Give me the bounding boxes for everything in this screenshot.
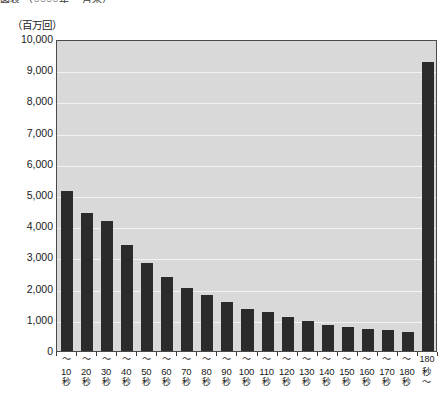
x-label-line-2: 50 xyxy=(136,366,156,378)
x-label-line-3: 秒 xyxy=(277,377,297,389)
bar xyxy=(201,295,213,351)
x-label-line-2: 90 xyxy=(216,366,236,378)
x-label-line-1: 〜 xyxy=(297,354,317,366)
bar xyxy=(382,330,394,351)
x-label-line-1: 〜 xyxy=(236,354,256,366)
bar xyxy=(282,317,294,351)
x-label-line-1: 〜 xyxy=(76,354,96,366)
bar xyxy=(342,327,354,351)
x-label-line-3: 秒 xyxy=(317,377,337,389)
x-label-line-3: 〜 xyxy=(417,377,437,389)
x-label-line-3: 秒 xyxy=(297,377,317,389)
x-label-line-2: 170 xyxy=(377,366,397,378)
x-label-line-3: 秒 xyxy=(216,377,236,389)
y-axis-tick-labels: 10,0009,0008,0007,0006,0005,0004,0003,00… xyxy=(0,0,53,407)
bar xyxy=(161,277,173,351)
x-label-line-3: 秒 xyxy=(56,377,76,389)
x-label-line-2: 150 xyxy=(337,366,357,378)
x-label-line-3: 秒 xyxy=(76,377,96,389)
x-label-line-2: 20 xyxy=(76,366,96,378)
y-tick-label: 6,000 xyxy=(1,158,53,170)
x-tick-label: 〜60秒 xyxy=(156,354,176,389)
bar xyxy=(402,332,414,351)
x-tick-label: 〜180秒 xyxy=(397,354,417,389)
x-label-line-1: 〜 xyxy=(136,354,156,366)
x-label-line-3: 秒 xyxy=(96,377,116,389)
y-tick-label: 7,000 xyxy=(1,127,53,139)
x-label-line-3: 秒 xyxy=(116,377,136,389)
x-label-line-2: 160 xyxy=(357,366,377,378)
x-tick-mark xyxy=(437,352,438,356)
bar xyxy=(362,329,374,351)
x-label-line-2: 10 xyxy=(56,366,76,378)
x-label-line-3: 秒 xyxy=(377,377,397,389)
x-label-line-3: 秒 xyxy=(176,377,196,389)
x-tick-label: 〜150秒 xyxy=(337,354,357,389)
y-tick-label: 8,000 xyxy=(1,95,53,107)
x-label-line-3: 秒 xyxy=(337,377,357,389)
x-label-line-1: 〜 xyxy=(176,354,196,366)
x-label-line-1: 〜 xyxy=(317,354,337,366)
x-tick-label: 〜120秒 xyxy=(277,354,297,389)
x-tick-label: 180秒〜 xyxy=(417,354,437,389)
bar xyxy=(121,245,133,351)
x-label-line-1: 〜 xyxy=(397,354,417,366)
x-tick-label: 〜160秒 xyxy=(357,354,377,389)
x-label-line-2: 180 xyxy=(397,366,417,378)
bar xyxy=(322,325,334,351)
x-label-line-2: 30 xyxy=(96,366,116,378)
y-tick-label: 5,000 xyxy=(1,189,53,201)
bar xyxy=(422,62,434,351)
x-label-line-2: 40 xyxy=(116,366,136,378)
bar xyxy=(221,302,233,351)
x-label-line-2: 110 xyxy=(257,366,277,378)
x-label-line-1: 〜 xyxy=(96,354,116,366)
x-label-line-1: 〜 xyxy=(257,354,277,366)
y-tick-label: 4,000 xyxy=(1,220,53,232)
x-label-line-2: 120 xyxy=(277,366,297,378)
x-label-line-1: 180 xyxy=(417,354,437,366)
x-axis-tick-labels: 〜10秒〜20秒〜30秒〜40秒〜50秒〜60秒〜70秒〜80秒〜90秒〜100… xyxy=(56,354,437,407)
x-tick-label: 〜20秒 xyxy=(76,354,96,389)
x-label-line-3: 秒 xyxy=(136,377,156,389)
x-label-line-3: 秒 xyxy=(236,377,256,389)
x-label-line-1: 〜 xyxy=(357,354,377,366)
plot-area xyxy=(56,40,437,352)
x-label-line-1: 〜 xyxy=(377,354,397,366)
bar-chart: 図表 （○○○○年 ・月末） （百万回） 10,0009,0008,0007,0… xyxy=(0,0,447,407)
bar xyxy=(241,309,253,351)
x-label-line-1: 〜 xyxy=(56,354,76,366)
x-label-line-1: 〜 xyxy=(277,354,297,366)
x-label-line-1: 〜 xyxy=(156,354,176,366)
x-label-line-3: 秒 xyxy=(156,377,176,389)
y-tick-label: 0 xyxy=(1,345,53,357)
x-label-line-2: 140 xyxy=(317,366,337,378)
bars-layer xyxy=(57,41,436,351)
y-tick-label: 2,000 xyxy=(1,283,53,295)
x-label-line-1: 〜 xyxy=(337,354,357,366)
cut-off-title: 図表 （○○○○年 ・月末） xyxy=(0,0,447,3)
x-tick-label: 〜50秒 xyxy=(136,354,156,389)
y-tick-label: 10,000 xyxy=(1,33,53,45)
x-label-line-1: 〜 xyxy=(216,354,236,366)
x-tick-label: 〜100秒 xyxy=(236,354,256,389)
y-tick-label: 9,000 xyxy=(1,64,53,76)
x-label-line-3: 秒 xyxy=(196,377,216,389)
x-tick-label: 〜170秒 xyxy=(377,354,397,389)
x-tick-label: 〜90秒 xyxy=(216,354,236,389)
x-label-line-2: 70 xyxy=(176,366,196,378)
x-label-line-1: 〜 xyxy=(116,354,136,366)
x-tick-label: 〜110秒 xyxy=(257,354,277,389)
x-label-line-2: 80 xyxy=(196,366,216,378)
x-label-line-3: 秒 xyxy=(397,377,417,389)
bar xyxy=(81,213,93,351)
x-label-line-3: 秒 xyxy=(257,377,277,389)
x-label-line-2: 130 xyxy=(297,366,317,378)
bar xyxy=(141,263,153,351)
x-tick-label: 〜80秒 xyxy=(196,354,216,389)
y-tick-label: 1,000 xyxy=(1,314,53,326)
bar xyxy=(181,288,193,351)
bar xyxy=(101,221,113,351)
x-tick-label: 〜140秒 xyxy=(317,354,337,389)
bar xyxy=(61,191,73,351)
